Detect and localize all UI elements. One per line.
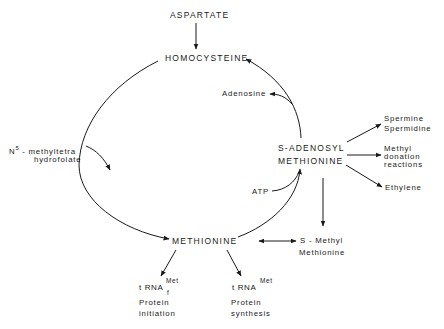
methionine-cycle-diagram: ASPARTATE HOMOCYSTEINE Adenosine N5 - me… [0,0,444,329]
caption-protein-initiation-1: Protein [139,298,169,308]
node-ethylene: Ethylene [385,183,422,193]
node-adenosine: Adenosine [222,89,266,99]
arrow-methionine-trna [227,250,241,276]
node-s-adenosyl-methionine: METHIONINE [278,157,343,166]
arrow-sam-spermine [347,124,381,142]
node-spermidine: Spermidine [384,124,431,133]
node-methyl-donation-3: reactions [384,161,423,169]
arrow-n5-methyltetrahydrofolate [86,146,110,170]
arc-homocysteine-methionine [79,61,169,239]
trna-f-superscript: Met [166,277,179,284]
node-atp: ATP [252,187,269,197]
arc-methionine-sam [238,169,300,237]
arrow-methionine-trna-f [161,250,176,276]
caption-protein-synthesis-1: Protein [231,298,261,308]
node-aspartate: ASPARTATE [170,11,229,20]
caption-protein-initiation-2: initiation [139,309,176,319]
caption-protein-synthesis-2: synthesis [231,309,271,319]
node-spermine: Spermine [384,114,424,123]
node-s-methyl: S - Methyl [300,236,343,246]
arrow-sam-ethylene [346,165,382,187]
node-s-adenosyl: S-ADENOSYL [278,144,345,153]
trna-base: t RNA [232,283,256,292]
arrow-adenosine [270,94,292,104]
trna-f-base: t RNA [139,283,163,292]
node-homocysteine: HOMOCYSTEINE [165,54,248,63]
node-n5-methyltetrahydrofolate-line2: hydrofolate [34,155,81,165]
node-s-methyl-methionine: Methionine [299,248,345,258]
trna-superscript: Met [260,277,273,284]
node-methionine: METHIONINE [172,237,237,246]
node-trna-met: t RNA Met [232,283,256,292]
node-trna-f-met: t RNA Met f [139,283,163,292]
trna-f-subscript: f [167,289,169,296]
